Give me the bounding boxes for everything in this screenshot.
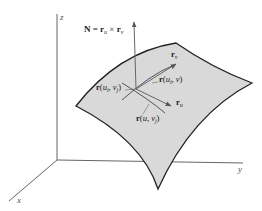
equals-sign: = — [91, 24, 101, 34]
normal-label: N = ru × rv — [84, 25, 123, 35]
paren-close: ) — [157, 113, 160, 123]
surface-diagram — [0, 0, 262, 211]
x-axis-label: x — [17, 196, 21, 205]
r-u-vj-label: r(u, vj) — [136, 114, 159, 124]
z-axis-label: z — [60, 13, 64, 22]
r-ui-v-label: r(ui, v) — [159, 75, 182, 85]
subscript-u: u — [180, 102, 183, 108]
y-axis-label: y — [238, 165, 242, 174]
r-ui-vj-label: r(ui, vj) — [96, 83, 121, 93]
surface-patch — [76, 43, 252, 189]
rv-label: rv — [171, 50, 177, 60]
cross-sign: × — [107, 24, 117, 34]
paren-close: ) — [118, 82, 121, 92]
subscript-v: v — [121, 29, 124, 35]
subscript-v: v — [175, 54, 178, 60]
ru-label: ru — [176, 98, 183, 108]
paren-close: ) — [180, 74, 183, 84]
